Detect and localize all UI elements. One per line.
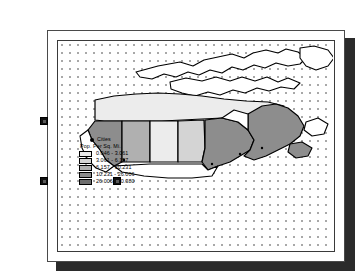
city-point: [239, 153, 241, 155]
selection-handle-bottom-right[interactable]: [113, 177, 121, 185]
region-newfoundland: [304, 118, 328, 136]
legend-swatch-2: [79, 158, 92, 164]
legend-class-row-5: 26.006 - 40.380: [79, 178, 163, 185]
legend-class-row-2: 3.061 - 6.157: [79, 157, 163, 164]
legend-swatch-1: [79, 151, 92, 157]
page-shadow-bottom: [56, 262, 355, 271]
map-layout-window: Cities Pop. Per Sq. Mi. 0.046 - 3.061 3.…: [0, 0, 362, 280]
legend-class-label-2: 3.061 - 6.157: [96, 158, 128, 163]
region-maritimes-1: [288, 142, 312, 158]
legend-swatch-3: [79, 165, 92, 171]
legend-cities-label: Cities: [97, 137, 111, 142]
city-point: [261, 147, 263, 149]
legend-class-row-4: 10.231 - 26.006: [79, 171, 163, 178]
selection-handle-bottom-left[interactable]: [40, 177, 48, 185]
legend-class-row-1: 0.046 - 3.061: [79, 150, 163, 157]
region-manitoba: [178, 120, 205, 162]
region-arctic-islands-1: [136, 49, 306, 79]
legend-title: Pop. Per Sq. Mi.: [79, 143, 163, 150]
city-point: [211, 163, 213, 165]
city-point-icon: [90, 138, 94, 142]
region-arctic-islands-2: [170, 77, 300, 96]
layout-canvas[interactable]: Cities Pop. Per Sq. Mi. 0.046 - 3.061 3.…: [59, 42, 333, 250]
legend-class-label-3: 6.157 - 10.231: [96, 165, 131, 170]
layout-page-border: Cities Pop. Per Sq. Mi. 0.046 - 3.061 3.…: [57, 40, 335, 252]
map-legend[interactable]: Cities Pop. Per Sq. Mi. 0.046 - 3.061 3.…: [79, 136, 163, 185]
page-shadow-right: [345, 38, 355, 270]
region-greenland-edge: [300, 46, 333, 70]
legend-class-row-3: 6.157 - 10.231: [79, 164, 163, 171]
legend-swatch-4: [79, 172, 92, 178]
layout-page: Cities Pop. Per Sq. Mi. 0.046 - 3.061 3.…: [47, 30, 345, 262]
selection-handle-top-left[interactable]: [40, 117, 48, 125]
legend-swatch-5: [79, 179, 92, 185]
legend-class-label-1: 0.046 - 3.061: [96, 151, 128, 156]
legend-cities-row: Cities: [79, 136, 163, 143]
